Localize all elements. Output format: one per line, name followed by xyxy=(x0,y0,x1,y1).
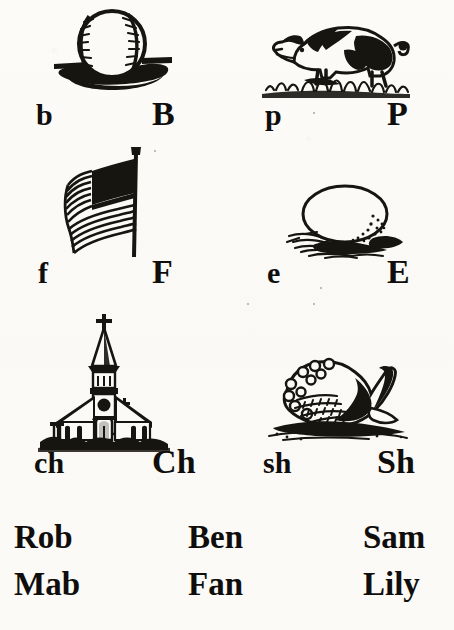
word-sam: Sam xyxy=(363,521,425,554)
flag-illustration xyxy=(56,145,164,260)
word-ben: Ben xyxy=(188,521,243,554)
letter-lowercase-f: f xyxy=(38,258,48,288)
shell-illustration xyxy=(267,352,409,444)
letter-lowercase-b: b xyxy=(36,100,53,130)
letter-uppercase-Sh: Sh xyxy=(377,445,415,479)
baseball-illustration xyxy=(52,8,174,96)
letter-lowercase-e: e xyxy=(267,258,281,288)
primer-page: b B xyxy=(0,0,454,630)
word-rob: Rob xyxy=(14,521,73,554)
picture-letter-cell-shell: sh Sh xyxy=(227,300,454,490)
letter-uppercase-B: B xyxy=(152,97,175,131)
letter-lowercase-sh: sh xyxy=(263,448,292,478)
letter-lowercase-p: p xyxy=(265,100,282,130)
picture-letter-cell-baseball: b B xyxy=(0,0,227,140)
picture-letter-cell-flag: f F xyxy=(0,140,227,300)
pig-illustration xyxy=(260,6,412,98)
letter-uppercase-P: P xyxy=(387,97,408,131)
picture-letter-cell-church: ch Ch xyxy=(0,300,227,490)
letter-lowercase-ch: ch xyxy=(34,448,64,478)
egg-illustration xyxy=(285,180,409,262)
church-illustration xyxy=(36,310,172,452)
word-lily: Lily xyxy=(363,568,420,601)
word-mab: Mab xyxy=(14,568,80,601)
picture-letter-cell-egg: e E xyxy=(227,140,454,300)
letter-uppercase-F: F xyxy=(152,255,173,289)
word-fan: Fan xyxy=(188,568,243,601)
letter-uppercase-E: E xyxy=(387,255,410,289)
letter-uppercase-Ch: Ch xyxy=(152,445,196,479)
picture-letter-cell-pig: p P xyxy=(227,0,454,140)
